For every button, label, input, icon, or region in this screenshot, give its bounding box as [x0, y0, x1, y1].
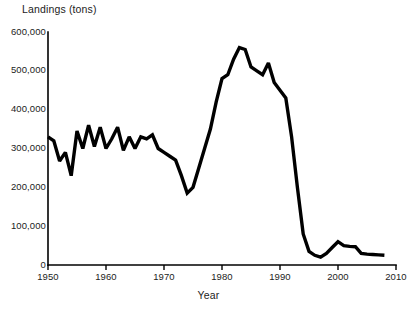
data-line-landings [48, 48, 384, 258]
chart-figure: Landings (tons) Year 600,000 500,000 400… [0, 0, 417, 318]
plot-area [0, 0, 417, 318]
